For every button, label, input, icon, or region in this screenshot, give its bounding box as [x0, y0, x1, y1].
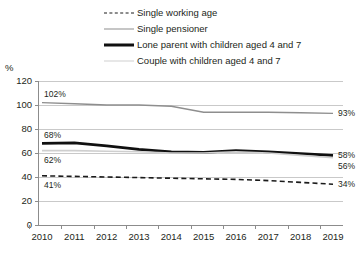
y-tick-label: 20 [6, 195, 32, 206]
legend-item-couple: Couple with children aged 4 and 7 [104, 54, 301, 67]
x-tick-label: 2012 [90, 231, 124, 242]
x-tick-label: 2018 [284, 231, 318, 242]
start-value-label: 102% [44, 89, 66, 99]
x-tick-label: 2011 [57, 231, 91, 242]
start-value-label: 41% [44, 180, 61, 190]
end-value-label: 58% [338, 150, 355, 160]
y-tick-mark [35, 225, 38, 226]
start-value-label: 68% [44, 130, 61, 140]
legend-label: Single pensioner [137, 23, 208, 34]
x-tick-mark [191, 225, 192, 229]
x-tick-mark [94, 225, 95, 229]
x-tick-mark [126, 225, 127, 229]
y-tick-label: 120 [6, 75, 32, 86]
y-tick-label: 60 [6, 147, 32, 158]
legend-label: Single working age [137, 7, 217, 18]
chart-container: Single working age Single pensioner Lone… [0, 0, 359, 258]
x-tick-label: 2019 [316, 231, 350, 242]
legend-item-single-pensioner: Single pensioner [104, 22, 301, 35]
x-tick-mark [255, 225, 256, 229]
x-tick-label: 2013 [122, 231, 156, 242]
x-tick-mark [158, 225, 159, 229]
x-tick-mark [223, 225, 224, 229]
start-value-label: 62% [44, 155, 61, 165]
plot-area: 120100806040200 201020112012201320142015… [38, 81, 343, 225]
x-tick-mark [288, 225, 289, 229]
legend-item-single-working-age: Single working age [104, 6, 301, 19]
y-tick-label: 100 [6, 99, 32, 110]
chart-legend: Single working age Single pensioner Lone… [104, 6, 301, 67]
y-tick-label: 80 [6, 123, 32, 134]
series-line [42, 176, 333, 184]
legend-label: Lone parent with children aged 4 and 7 [137, 39, 301, 50]
x-tick-label: 2017 [251, 231, 285, 242]
x-tick-mark [320, 225, 321, 229]
x-tick-mark [29, 225, 30, 229]
x-tick-mark [61, 225, 62, 229]
legend-item-lone-parent: Lone parent with children aged 4 and 7 [104, 38, 301, 51]
series-line [42, 103, 333, 114]
end-value-label: 93% [338, 108, 355, 118]
x-tick-label: 2014 [154, 231, 188, 242]
end-value-label: 34% [338, 179, 355, 189]
y-tick-label: 40 [6, 171, 32, 182]
end-value-label: 56% [338, 161, 355, 171]
y-axis-unit-label: % [5, 62, 13, 73]
series-lines [38, 81, 343, 225]
x-tick-label: 2016 [219, 231, 253, 242]
x-tick-label: 2015 [187, 231, 221, 242]
legend-label: Couple with children aged 4 and 7 [137, 55, 281, 66]
x-tick-label: 2010 [25, 231, 59, 242]
